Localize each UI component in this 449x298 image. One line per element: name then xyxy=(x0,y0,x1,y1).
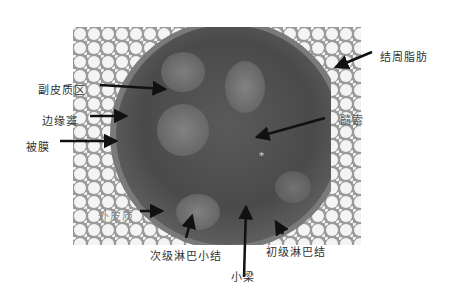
label-capsule: 被膜 xyxy=(26,138,50,154)
label-paracortex: 副皮质区 xyxy=(38,81,86,97)
marker-star: * xyxy=(259,150,265,161)
label-medullary-cord: 髓索 xyxy=(340,111,364,127)
label-secondary-follicle: 次级淋巴小结 xyxy=(150,247,222,263)
lymph-node-figure: 结周脂肪 副皮质区 边缘窦 被膜 髓索 * 外皮质 次级淋巴小结 小梁 初级淋巴… xyxy=(0,0,449,298)
label-trabecula: 小梁 xyxy=(231,268,255,284)
annotation-arrows xyxy=(0,0,449,298)
label-outer-cortex: 外皮质 xyxy=(98,207,134,223)
label-primary-follicle: 初级淋巴结 xyxy=(266,243,326,259)
label-perinodal-fat: 结周脂肪 xyxy=(380,48,428,64)
label-marginal-sinus: 边缘窦 xyxy=(42,112,78,128)
